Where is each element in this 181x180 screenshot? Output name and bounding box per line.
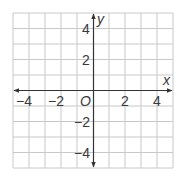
y-axis-label: y <box>96 11 105 27</box>
origin-label: O <box>80 93 91 109</box>
x-tick-label: 4 <box>153 93 161 109</box>
x-tick-label: −2 <box>48 93 64 109</box>
y-tick-label: 2 <box>82 52 90 68</box>
x-tick-label: 2 <box>121 93 129 109</box>
y-tick-label: 4 <box>82 21 90 37</box>
x-axis-label: x <box>162 72 171 88</box>
coordinate-plane: x y −4 −2 O 2 4 4 2 −2 −4 <box>0 0 181 180</box>
y-tick-label: −2 <box>74 114 90 130</box>
x-tick-label: −4 <box>16 93 32 109</box>
y-tick-label: −4 <box>74 145 90 161</box>
